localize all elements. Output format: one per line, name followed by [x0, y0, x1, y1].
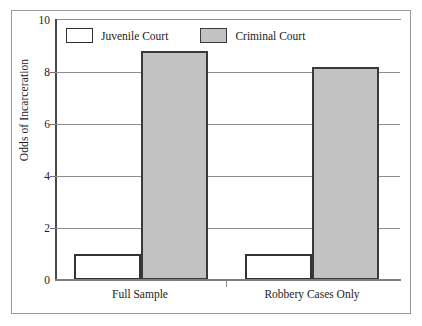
legend-entry-criminal-court: Criminal Court: [200, 28, 305, 43]
chart-figure: Odds of Incarceration 10 8 6 4 2 0 Full …: [0, 0, 422, 326]
bar-robbery-cases-only-juvenile-court: [245, 254, 312, 280]
y-tick-label-10: 10: [24, 15, 50, 27]
x-tick-label-robbery-cases-only: Robbery Cases Only: [264, 288, 359, 300]
legend-label-criminal-court: Criminal Court: [235, 30, 305, 42]
y-axis-tick-labels: 10 8 6 4 2 0: [22, 20, 50, 280]
x-tick-label-full-sample: Full Sample: [112, 288, 168, 300]
bars-layer: [55, 20, 400, 280]
legend: Juvenile Court Criminal Court: [66, 28, 305, 43]
y-tick-label-8: 8: [24, 67, 50, 79]
legend-swatch-icon-criminal-court: [200, 28, 227, 43]
x-axis-tick-labels: Full Sample Robbery Cases Only: [55, 288, 401, 306]
y-tick-label-0: 0: [24, 275, 50, 287]
bar-full-sample-juvenile-court: [74, 254, 141, 280]
y-tick-label-4: 4: [24, 171, 50, 183]
x-axis-spine: [55, 279, 401, 281]
x-axis-group-separator-tick: [226, 281, 227, 287]
legend-entry-juvenile-court: Juvenile Court: [66, 28, 168, 43]
bar-robbery-cases-only-criminal-court: [312, 67, 379, 280]
y-tick-label-2: 2: [24, 223, 50, 235]
bar-full-sample-criminal-court: [141, 51, 208, 280]
legend-label-juvenile-court: Juvenile Court: [101, 30, 168, 42]
y-tick-label-6: 6: [24, 119, 50, 131]
legend-swatch-icon-juvenile-court: [66, 28, 93, 43]
